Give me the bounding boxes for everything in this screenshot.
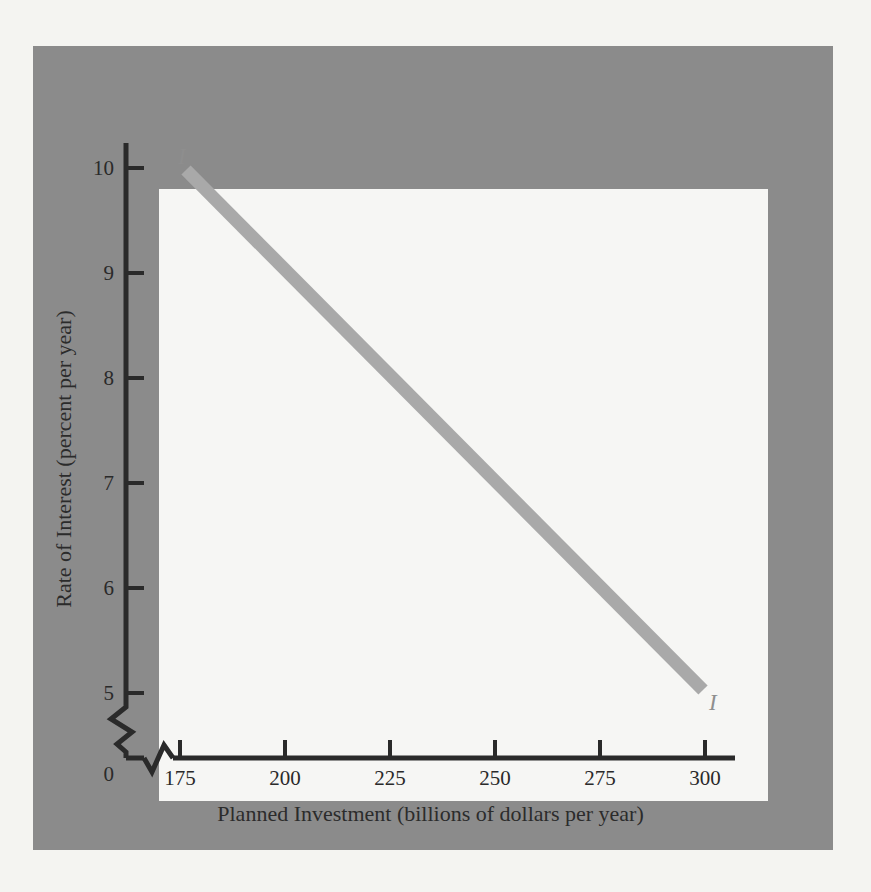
x-tick-label-275: 275	[565, 768, 635, 789]
plot-area	[159, 189, 768, 801]
y-tick-label-10: 10	[68, 158, 114, 179]
y-tick-label-5: 5	[68, 683, 114, 704]
x-tick-label-225: 225	[355, 768, 425, 789]
curve-label-top: I	[178, 145, 186, 168]
y-axis-title: Rate of Interest (percent per year)	[51, 249, 77, 669]
x-tick-label-250: 250	[460, 768, 530, 789]
x-tick-label-300: 300	[670, 768, 740, 789]
x-axis-title: Planned Investment (billions of dollars …	[126, 801, 735, 827]
figure-page: 10 9 8 7 6 5 0 175 200 225 250 275 300 P…	[0, 0, 871, 892]
x-tick-label-175: 175	[145, 768, 215, 789]
axis-origin-label: 0	[68, 764, 114, 785]
x-tick-label-200: 200	[250, 768, 320, 789]
curve-label-bottom: I	[709, 691, 717, 714]
figure-panel	[33, 46, 833, 850]
